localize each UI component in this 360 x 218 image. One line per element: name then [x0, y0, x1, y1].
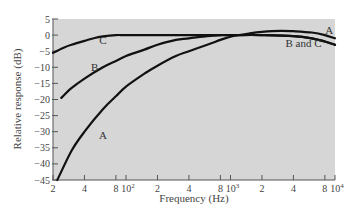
x-tick-label: 4 [82, 183, 87, 194]
y-tick-label: 0 [45, 30, 50, 41]
x-tick-label: 8 [322, 183, 327, 194]
curve-label: A [99, 129, 107, 141]
y-tick-label: −5 [39, 46, 50, 57]
x-tick-label: 8 [113, 183, 118, 194]
y-tick-label: −20 [34, 94, 50, 105]
curve-label: C [99, 34, 106, 46]
x-tick-label: 4 [291, 183, 296, 194]
x-axis-title: Frequency (Hz) [159, 192, 229, 205]
x-tick-label: 102 [121, 182, 135, 194]
curve-label: B [91, 61, 98, 73]
y-tick-label: −25 [34, 110, 50, 121]
y-tick-label: −40 [34, 158, 50, 169]
curve-label: A [325, 24, 333, 36]
y-tick-label: −30 [34, 126, 50, 137]
y-axis-title: Relative response (dB) [11, 48, 24, 149]
curve-label: B and C [286, 37, 322, 49]
y-tick-label: −45 [34, 175, 50, 186]
x-tick-label: 104 [330, 182, 344, 194]
frequency-response-chart: 50−5−10−15−20−25−30−35−40−45 24810224810… [0, 0, 360, 218]
x-tick-label: 2 [51, 183, 56, 194]
y-tick-label: 5 [45, 14, 50, 25]
y-tick-label: −35 [34, 142, 50, 153]
y-tick-label: −15 [34, 78, 50, 89]
y-tick-label: −10 [34, 62, 50, 73]
x-tick-label: 2 [259, 183, 264, 194]
